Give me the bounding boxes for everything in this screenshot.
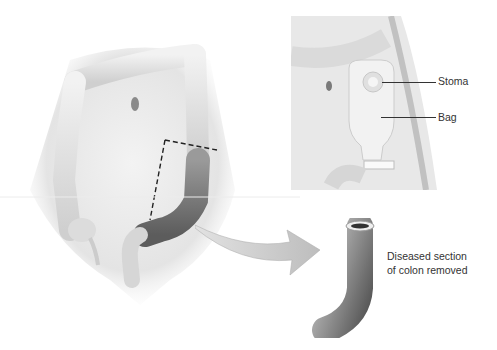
stoma-label: Stoma: [438, 75, 468, 88]
navel: [131, 97, 139, 111]
ascending-colon: [64, 82, 75, 230]
caption-line-2: of colon removed: [387, 263, 468, 277]
caption-line-1: Diseased section: [387, 249, 468, 263]
bag-label: Bag: [438, 111, 457, 124]
navel: [326, 81, 332, 91]
abdomen-colon-illustration: [0, 40, 300, 340]
removed-section-caption: Diseased section of colon removed: [387, 249, 468, 277]
bag-clamp: [364, 161, 394, 169]
stoma-bag-inset: [291, 16, 437, 190]
removed-colon-section: [300, 218, 390, 338]
descending-colon: [195, 55, 198, 160]
colostomy-diagram: Stoma Bag Diseased section of colon remo…: [0, 0, 497, 350]
stoma-leader-line: [382, 82, 436, 83]
bag-leader-line: [381, 117, 436, 118]
